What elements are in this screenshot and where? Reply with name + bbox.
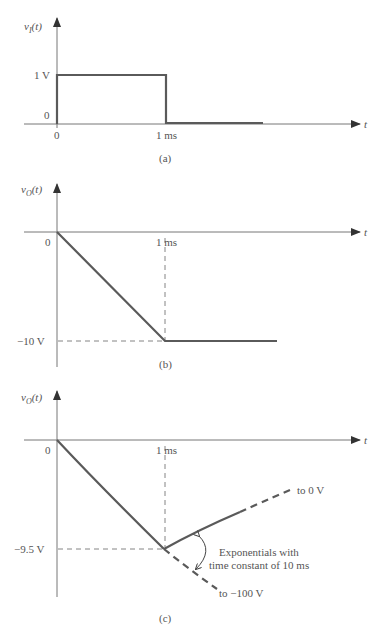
y-tick-minus9p5v: −9.5 V — [14, 543, 45, 555]
x-axis-label-b: t — [364, 226, 368, 238]
panel-c: vO(t) 0 −9.5 V 1 ms t to 0 V Exponential… — [14, 391, 368, 625]
x-tick-1ms-b: 1 ms — [156, 236, 177, 248]
y-tick-1v: 1 V — [34, 69, 50, 81]
decay-to-0v-dashed — [240, 490, 290, 512]
y-tick-0-b: 0 — [45, 236, 51, 248]
x-tick-1ms-c: 1 ms — [156, 444, 177, 456]
panel-b: vO(t) 0 −10 V 1 ms t (b) — [17, 183, 368, 371]
caption-c: (c) — [159, 612, 172, 625]
x-tick-0: 0 — [54, 129, 60, 141]
y-tick-0-c: 0 — [45, 444, 51, 456]
exponential-charge-curve — [57, 440, 164, 549]
waveform-figure: vI(t) 1 V 0 0 1 ms t (a) vO(t) 0 −10 V 1… — [0, 0, 382, 637]
y-axis-label-a: vI(t) — [24, 20, 42, 35]
decay-to-0v-solid — [164, 512, 240, 549]
x-axis-label-c: t — [364, 434, 368, 446]
ramp-output-curve — [57, 232, 277, 341]
x-tick-1ms: 1 ms — [156, 129, 177, 141]
panel-a: vI(t) 1 V 0 0 1 ms t (a) — [24, 18, 368, 165]
input-pulse-curve — [57, 75, 263, 124]
annotation-line1: Exponentials with — [219, 546, 299, 558]
y-axis-label-c: vO(t) — [21, 391, 42, 406]
y-tick-0: 0 — [44, 109, 50, 121]
y-axis-label-b: vO(t) — [21, 183, 42, 198]
y-tick-minus10v: −10 V — [17, 335, 45, 347]
label-to-minus100v: to −100 V — [219, 587, 264, 599]
caption-b: (b) — [159, 358, 172, 371]
annotation-line2: time constant of 10 ms — [209, 559, 309, 571]
caption-a: (a) — [159, 152, 172, 165]
x-axis-label-a: t — [364, 118, 368, 130]
label-to-0v: to 0 V — [297, 484, 324, 496]
annotation-bracket-arrow — [196, 536, 206, 569]
